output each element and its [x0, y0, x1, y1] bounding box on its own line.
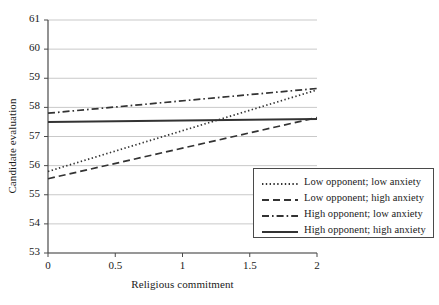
series-line-3 [48, 119, 317, 122]
legend-item-label: High opponent; high anxiety [300, 224, 426, 235]
legend-item-label: Low opponent; high anxiety [300, 192, 424, 203]
legend-item: Low opponent; high anxiety [260, 189, 424, 206]
y-tick-label: 57 [10, 129, 40, 141]
chart-legend: Low opponent; low anxietyLow opponent; h… [253, 168, 434, 238]
y-tick-label: 56 [10, 158, 40, 170]
x-tick-label: 1 [163, 259, 203, 271]
legend-line-sample-dashed [260, 192, 300, 204]
legend-item-label: Low opponent; low anxiety [300, 176, 421, 187]
legend-line-sample-solid [260, 224, 300, 236]
chart-figure: Candidate evaluation Religious commitmen… [0, 0, 439, 305]
x-tick-label: 2 [297, 259, 337, 271]
x-tick-label: 0.5 [95, 259, 135, 271]
x-tick-label: 0 [28, 259, 68, 271]
y-tick-label: 58 [10, 99, 40, 111]
x-axis-title: Religious commitment [48, 278, 317, 290]
y-tick-label: 61 [10, 12, 40, 24]
series-line-0 [48, 90, 317, 172]
legend-line-sample-dotted [260, 176, 300, 188]
x-tick-label: 1.5 [230, 259, 270, 271]
legend-line-sample-dash-dot [260, 208, 300, 220]
y-tick-label: 53 [10, 245, 40, 257]
y-tick-label: 59 [10, 70, 40, 82]
legend-item: High opponent; low anxiety [260, 205, 423, 222]
y-tick-label: 54 [10, 216, 40, 228]
y-tick-label: 60 [10, 41, 40, 53]
y-tick-label: 55 [10, 187, 40, 199]
legend-item-label: High opponent; low anxiety [300, 208, 423, 219]
legend-item: High opponent; high anxiety [260, 221, 426, 238]
series-line-2 [48, 88, 317, 113]
legend-item: Low opponent; low anxiety [260, 173, 421, 190]
